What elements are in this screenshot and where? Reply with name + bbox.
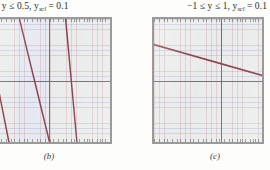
- calculator-screen-b: [0, 17, 112, 144]
- range-text-c: −1 ≤ y ≤ 1, y: [187, 1, 237, 11]
- range-tail-c: = 0.1: [244, 1, 267, 11]
- range-tail-b: = 0.1: [46, 1, 69, 11]
- tick-rail-bottom-c: [154, 139, 262, 142]
- screen-inner-c: [154, 19, 262, 142]
- figure-caption-c: (c): [201, 151, 229, 161]
- plot-lines-b: [0, 19, 110, 142]
- plot-line-b-2: [19, 19, 50, 142]
- calculator-screen-c: [152, 17, 264, 144]
- tick-rail-top-c: [154, 19, 262, 22]
- plot-lines-c: [154, 19, 262, 141]
- figure-root: ≤ y ≤ 0.5, yscl = 0.1: [0, 0, 270, 170]
- plot-line-b-1: [0, 19, 9, 142]
- tick-rail-bottom-b: [0, 139, 110, 142]
- plot-line-c-1: [154, 44, 262, 76]
- window-range-label-c: −1 ≤ y ≤ 1, yscl = 0.1: [187, 0, 267, 13]
- window-range-label-b: ≤ y ≤ 0.5, yscl = 0.1: [0, 0, 69, 13]
- plot-line-b-3: [65, 19, 77, 142]
- figure-panel-b: ≤ y ≤ 0.5, yscl = 0.1: [0, 0, 135, 170]
- range-text-b: ≤ y ≤ 0.5, y: [0, 1, 39, 11]
- range-subscript-b: scl: [39, 5, 46, 12]
- figure-caption-b: (b): [35, 151, 63, 161]
- tick-rail-top-b: [0, 19, 110, 22]
- screen-inner-b: [0, 19, 110, 142]
- figure-panel-c: −1 ≤ y ≤ 1, yscl = 0.1 (c): [135, 0, 270, 170]
